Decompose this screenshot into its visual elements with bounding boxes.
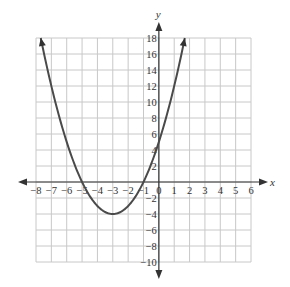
x-tick-label: 2	[187, 185, 192, 196]
y-tick-label: 6	[152, 129, 157, 140]
y-tick-label: 12	[146, 81, 157, 92]
x-tick-label: −4	[92, 185, 104, 196]
x-axis-left-arrow-icon	[18, 179, 27, 186]
grid	[36, 38, 251, 262]
y-axis-up-arrow-icon	[155, 22, 162, 31]
y-tick-label: 8	[152, 113, 157, 124]
y-tick-label: −2	[146, 193, 157, 204]
y-tick-label: 16	[146, 49, 157, 60]
x-tick-label: 5	[233, 185, 238, 196]
y-tick-label: −10	[140, 257, 156, 268]
y-axis-down-arrow-icon	[155, 270, 162, 279]
x-tick-label: −8	[30, 185, 41, 196]
x-tick-label: 3	[202, 185, 207, 196]
curve-right-arrow-icon	[180, 38, 187, 47]
y-tick-label: −8	[146, 241, 157, 252]
x-axis-right-arrow-icon	[259, 179, 268, 186]
y-tick-label: −6	[146, 225, 157, 236]
coordinate-plane: −8−7−6−5−4−3−2−1012345618161412108642−2−…	[0, 0, 290, 287]
x-tick-label: 6	[248, 185, 253, 196]
x-tick-label: 4	[218, 185, 224, 196]
x-tick-label: −2	[123, 185, 134, 196]
y-tick-label: −4	[146, 209, 158, 220]
x-tick-label: 0	[156, 185, 161, 196]
curve-left-arrow-icon	[39, 38, 46, 47]
y-tick-label: 14	[146, 65, 157, 76]
y-tick-label: 18	[146, 33, 157, 44]
x-tick-label: −6	[61, 185, 72, 196]
y-tick-label: 10	[146, 97, 157, 108]
x-tick-label: 1	[172, 185, 177, 196]
x-tick-label: −3	[107, 185, 118, 196]
x-axis-label: x	[269, 176, 275, 188]
y-axis-label: y	[155, 8, 161, 20]
x-tick-label: −7	[46, 185, 57, 196]
